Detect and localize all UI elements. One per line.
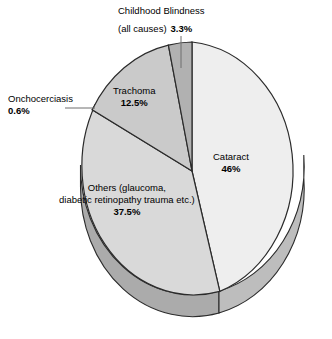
cataract-label-name: Cataract — [213, 151, 249, 163]
trachoma-label-pct: 12.5% — [113, 97, 155, 109]
childhood-label-line2: (all causes) — [118, 23, 167, 34]
slice-label-childhood-blindness: Childhood Blindness (all causes)3.3% — [118, 5, 205, 37]
slice-label-onchocerciasis: Onchocerciasis 0.6% — [8, 93, 73, 117]
pie-chart-canvas — [0, 0, 332, 339]
others-label-pct: 37.5% — [59, 206, 195, 218]
pie-chart: Childhood Blindness (all causes)3.3% Onc… — [0, 0, 332, 339]
others-label-line2: diabetic retinopathy trauma etc.) — [59, 194, 195, 206]
onchocerciasis-label-pct: 0.6% — [8, 105, 73, 117]
slice-label-cataract: Cataract 46% — [213, 151, 249, 175]
others-label-line1: Others (glaucoma, — [59, 182, 195, 194]
childhood-label-line1: Childhood Blindness — [118, 5, 205, 17]
slice-label-trachoma: Trachoma 12.5% — [113, 85, 155, 109]
onchocerciasis-label-name: Onchocerciasis — [8, 93, 73, 105]
cataract-label-pct: 46% — [213, 163, 249, 175]
slice-label-others: Others (glaucoma, diabetic retinopathy t… — [59, 182, 195, 218]
trachoma-label-name: Trachoma — [113, 85, 155, 97]
childhood-label-pct: 3.3% — [171, 23, 193, 34]
